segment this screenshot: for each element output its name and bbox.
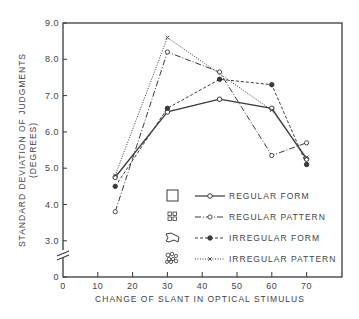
series-regular-pattern: [113, 50, 309, 214]
legend-marker: [208, 236, 212, 240]
data-point: [113, 210, 117, 214]
legend-marker: [208, 257, 212, 261]
data-point: [165, 50, 169, 54]
data-point: [165, 106, 169, 110]
data-point: [270, 83, 274, 87]
legend-label: IRREGULAR PATTERN: [229, 254, 336, 264]
data-point: [270, 153, 274, 157]
legend-marker: [208, 194, 213, 199]
four-squares-icon: [168, 212, 177, 221]
legend-item: REGULAR PATTERN: [168, 212, 326, 222]
y-tick-label: 6.0: [45, 127, 59, 137]
series-irregular-form: [113, 77, 309, 188]
legend-label: IRREGULAR FORM: [229, 233, 320, 243]
x-tick-label: 40: [197, 281, 208, 291]
legend: REGULAR FORMREGULAR PATTERNIRREGULAR FOR…: [166, 190, 337, 264]
series-group: [113, 36, 309, 214]
legend-item: REGULAR FORM: [167, 190, 309, 201]
y-tick-label: 9.0: [45, 18, 59, 28]
x-tick-label: 50: [231, 281, 242, 291]
legend-label: REGULAR PATTERN: [229, 212, 326, 222]
x-tick-label: 0: [60, 281, 66, 291]
series-line: [115, 99, 306, 177]
y-axis-title: STANDARD DEVIATION OF JUDGMENTS: [17, 53, 27, 247]
data-point: [217, 97, 222, 102]
legend-item: IRREGULAR FORM: [166, 233, 320, 243]
series-regular-form: [113, 97, 309, 180]
square-icon: [167, 190, 178, 201]
series-irregular-pattern: [113, 36, 308, 178]
chart: 03.04.05.06.07.08.09.0010203040506070 RE…: [0, 0, 359, 319]
legend-label: REGULAR FORM: [229, 191, 309, 201]
series-line: [115, 38, 306, 176]
y-axis-subtitle: (DEGREES): [28, 122, 38, 178]
data-point: [166, 36, 170, 40]
data-point: [305, 141, 309, 145]
legend-item: IRREGULAR PATTERN: [166, 252, 337, 264]
axes: 03.04.05.06.07.08.09.0010203040506070: [45, 18, 342, 291]
data-point: [217, 77, 221, 81]
y-tick-label: 7.0: [45, 91, 59, 101]
y-tick-label: 4.0: [45, 200, 59, 210]
legend-marker: [208, 215, 212, 219]
y-tick-label: 5.0: [45, 163, 59, 173]
x-tick-label: 30: [162, 281, 173, 291]
series-line: [115, 79, 306, 186]
x-tick-label: 70: [301, 281, 312, 291]
irregular-cluster-icon: [166, 252, 178, 263]
y-tick-label: 3.0: [45, 236, 59, 246]
data-point: [113, 184, 117, 188]
data-point: [304, 162, 308, 166]
irregular-blob-icon: [166, 233, 179, 242]
x-tick-label: 20: [127, 281, 138, 291]
series-line: [115, 52, 306, 212]
x-tick-label: 60: [266, 281, 277, 291]
y-tick-label: 8.0: [45, 54, 59, 64]
x-tick-label: 10: [92, 281, 103, 291]
y-tick-label: 0: [53, 272, 59, 282]
x-axis-title: CHANGE OF SLANT IN OPTICAL STIMULUS: [95, 294, 305, 304]
